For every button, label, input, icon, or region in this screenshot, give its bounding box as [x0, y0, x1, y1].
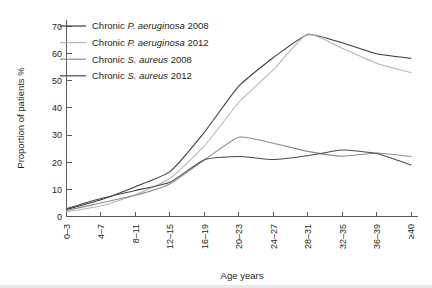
y-tick-label: 30: [52, 130, 62, 140]
legend-label-2: Chronic P. aeruginosa 2012: [92, 37, 209, 48]
x-tick-label: 16–19: [200, 224, 210, 249]
y-axis-tick-labels: 010203040506070: [52, 22, 62, 222]
y-tick-label: 40: [52, 103, 62, 113]
x-tick-label: 20–23: [234, 224, 244, 249]
x-axis-title: Age years: [221, 270, 264, 281]
x-tick-label: 0–3: [62, 224, 72, 239]
x-tick-label: 36–39: [372, 224, 382, 249]
y-tick-label: 10: [52, 185, 62, 195]
legend-label-1: Chronic P. aeruginosa 2008: [92, 20, 209, 31]
y-tick-label: 60: [52, 49, 62, 59]
x-axis-tick-labels: 0–34–78–1112–1516–1920–2324–2728–3132–35…: [62, 224, 417, 249]
y-tick-label: 20: [52, 158, 62, 168]
y-tick-label: 50: [52, 76, 62, 86]
y-axis-title: Proportion of patients %: [15, 67, 26, 169]
x-tick-label: 12–15: [165, 224, 175, 249]
series-line-3: [67, 137, 412, 210]
x-tick-label: 8–11: [131, 224, 141, 243]
series-line-4: [67, 150, 412, 209]
y-tick-label: 0: [57, 212, 62, 222]
x-axis-ticks: [67, 212, 412, 217]
chart-legend: Chronic P. aeruginosa 2008Chronic P. aer…: [60, 20, 209, 81]
legend-label-3: Chronic S. aureus 2008: [92, 54, 192, 65]
x-tick-label: ≥40: [406, 224, 416, 239]
x-tick-label: 24–27: [269, 224, 279, 249]
x-tick-label: 4–7: [96, 224, 106, 239]
y-axis-ticks: [67, 27, 72, 217]
chart-figure: 010203040506070 0–34–78–1112–1516–1920–2…: [0, 0, 432, 288]
line-chart: 010203040506070 0–34–78–1112–1516–1920–2…: [0, 0, 432, 288]
x-tick-label: 28–31: [303, 224, 313, 249]
x-tick-label: 32–35: [338, 224, 348, 249]
y-tick-label: 70: [52, 22, 62, 32]
legend-label-4: Chronic S. aureus 2012: [92, 70, 192, 81]
